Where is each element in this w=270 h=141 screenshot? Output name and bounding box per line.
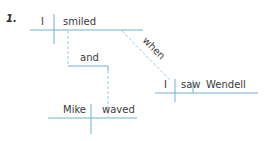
clause-1-verb: smiled — [63, 16, 96, 27]
clause-1: I smiled — [30, 14, 143, 44]
clause-2-subject: Mike — [63, 104, 86, 115]
clause-3-subject: I — [164, 79, 167, 90]
clause-2-verb: waved — [102, 104, 135, 115]
subordinator-word: when — [141, 35, 168, 62]
clause-1-subject: I — [41, 16, 44, 27]
clause-3-verb: saw — [181, 79, 201, 90]
conjunction-word: and — [80, 52, 99, 63]
sentence-diagram: 1. I smiled and Mike waved when I saw We… — [0, 0, 270, 141]
subordinator: when — [122, 31, 170, 80]
clause-2: Mike waved — [48, 104, 137, 134]
clause-3: I saw Wendell — [155, 79, 258, 102]
clause-3-object: Wendell — [206, 79, 246, 90]
item-number: 1. — [6, 13, 17, 24]
